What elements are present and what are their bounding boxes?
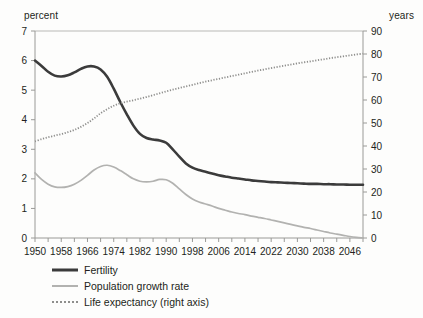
y-axis-left-tick-label: 6: [21, 55, 27, 66]
y-axis-right-tick-label: 70: [371, 72, 383, 83]
legend-item-population-growth-rate[interactable]: Population growth rate: [52, 278, 352, 294]
y-axis-right-tick-label: 90: [371, 26, 383, 37]
y-axis-left-tick-label: 4: [21, 114, 27, 125]
x-axis-tick-label: 2038: [313, 246, 336, 257]
x-axis-tick-label: 1966: [76, 246, 99, 257]
x-axis-tick-label: 2022: [260, 246, 283, 257]
x-axis-tick-label: 1950: [24, 246, 47, 257]
x-axis-tick-label: 2046: [339, 246, 362, 257]
y-axis-right-tick-label: 30: [371, 164, 383, 175]
series-layer: [35, 54, 363, 238]
chart-legend: Fertility Population growth rate Life ex…: [52, 262, 352, 310]
axes-layer: [35, 31, 363, 238]
y-axis-left-tick-label: 5: [21, 85, 27, 96]
x-axis-tick-label: 1998: [181, 246, 204, 257]
x-axis-tick-label: 1974: [103, 246, 126, 257]
y-axis-right-tick-label: 60: [371, 95, 383, 106]
y-axis-left-tick-label: 0: [21, 233, 27, 244]
y-axis-left-tick-label: 7: [21, 26, 27, 37]
y-axis-right-tick-label: 80: [371, 49, 383, 60]
x-axis-tick-label: 2006: [208, 246, 231, 257]
y-axis-right-tick-label: 20: [371, 187, 383, 198]
legend-item-label: Population growth rate: [84, 280, 189, 292]
y-axis-right-tick-label: 10: [371, 210, 383, 221]
x-axis-tick-label: 1982: [129, 246, 152, 257]
series-line-fertility: [35, 61, 363, 185]
dotted-gray-line-icon: [52, 297, 78, 307]
x-axis-tick-label: 2014: [234, 246, 257, 257]
solid-gray-line-icon: [52, 281, 78, 291]
y-axis-left-tick-label: 3: [21, 144, 27, 155]
legend-item-life-expectancy[interactable]: Life expectancy (right axis): [52, 294, 352, 310]
y-axis-right-tick-label: 40: [371, 141, 383, 152]
legend-item-label: Fertility: [84, 264, 118, 276]
y-axis-left-tick-label: 2: [21, 173, 27, 184]
tick-marks-layer: [31, 31, 367, 242]
solid-dark-line-icon: [52, 265, 78, 275]
y-axis-right-tick-label: 50: [371, 118, 383, 129]
legend-item-fertility[interactable]: Fertility: [52, 262, 352, 278]
tick-labels-layer: 0123456701020304050607080901950195819661…: [21, 26, 382, 257]
y-axis-left-tick-label: 1: [21, 203, 27, 214]
series-line-population-growth-rate: [35, 165, 363, 238]
x-axis-tick-label: 1990: [155, 246, 178, 257]
legend-item-label: Life expectancy (right axis): [84, 296, 209, 308]
x-axis-tick-label: 1958: [50, 246, 73, 257]
x-axis-tick-label: 2030: [286, 246, 309, 257]
chart-container: percent years 01234567010203040506070809…: [0, 0, 423, 318]
y-axis-right-tick-label: 0: [371, 233, 377, 244]
